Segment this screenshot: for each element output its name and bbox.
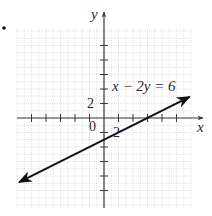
origin-label: 0 [89, 119, 96, 134]
x-tick-label-2: 2 [113, 125, 120, 140]
coordinate-graph: y x 2 0 2 x − 2y = 6 [0, 0, 212, 216]
y-tick-label-2: 2 [87, 96, 94, 111]
equation-label: x − 2y = 6 [111, 78, 176, 94]
axes [17, 12, 203, 208]
bullet-point [2, 26, 6, 30]
x-axis-label: x [196, 119, 204, 135]
y-axis-label: y [89, 6, 98, 22]
